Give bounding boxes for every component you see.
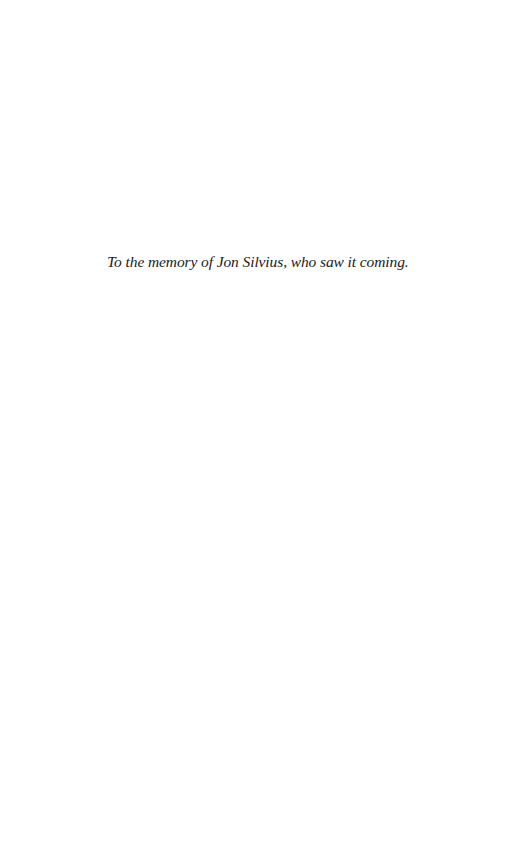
dedication-text: To the memory of Jon Silvius, who saw it… (107, 252, 409, 272)
book-page: To the memory of Jon Silvius, who saw it… (0, 0, 523, 867)
